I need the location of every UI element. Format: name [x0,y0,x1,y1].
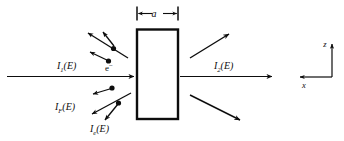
scatter-group-upper-left [88,32,128,64]
electron-scatter-label: Ie(E) [89,123,110,136]
forward-scatter-label: IF(E) [54,101,76,114]
thickness-label: a [152,8,157,19]
electron-dot-ll-2 [116,100,121,105]
thickness-dimension: a [137,7,178,21]
scatter-arrow-r-up [190,34,229,58]
incident-beam-label: I1(E) [56,60,77,73]
incident-beam-argument: (E) [64,60,77,72]
electron-scatter-argument: (E) [96,123,109,135]
scatter-group-lower-left [92,85,131,120]
scatter-arrow-r-down [190,95,240,120]
diagram-canvas: | ================= --> a I1(E) I2(E) [0,0,344,141]
z-axis-label: z [322,39,327,49]
sample-slab [137,30,178,120]
electron-label: e− [105,62,113,73]
physics-diagram-figure: | ================= --> a I1(E) I2(E) [0,0,344,141]
electron-dot-ul-1 [111,46,116,51]
electron-dot-ll-1 [109,85,114,90]
scatter-arrow-ll-2 [92,93,131,114]
coordinate-axes: z x [300,39,332,90]
transmitted-beam-argument: (E) [221,60,234,72]
x-axis-label: x [301,80,306,90]
electron-superscript: − [109,62,113,70]
transmitted-beam-label: I2(E) [213,60,234,73]
forward-scatter-argument: (E) [62,101,75,113]
